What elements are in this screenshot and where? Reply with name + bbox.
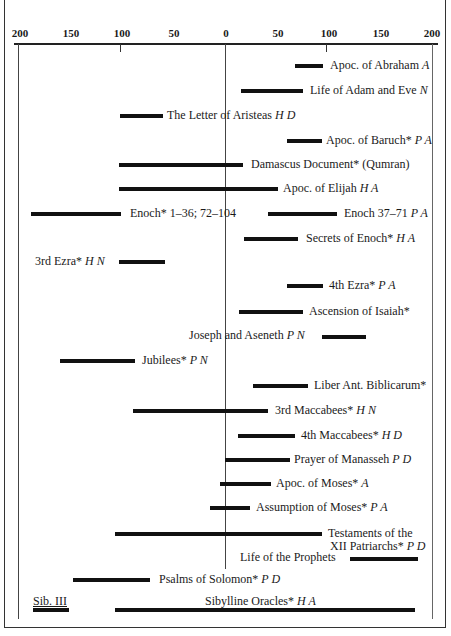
label-ascension-isaiah: Ascension of Isaiah* <box>309 304 410 318</box>
label-apoc-moses: Apoc. of Moses* A <box>276 476 369 490</box>
label-jubilees: Jubilees* P N <box>142 353 208 367</box>
label-enoch-2: Enoch 37–71 P A <box>344 206 428 220</box>
label-4th-maccabees: 4th Maccabees* H D <box>301 428 402 442</box>
bar-4th-maccabees <box>238 434 295 438</box>
bar-apoc-abraham <box>295 64 323 68</box>
bar-life-adam-eve <box>241 89 303 93</box>
bar-assumption-moses <box>210 506 250 510</box>
zero-line <box>225 44 226 569</box>
label-apoc-elijah: Apoc. of Elijah H A <box>283 181 378 195</box>
label-life-prophets: Life of the Prophets <box>240 550 336 564</box>
label-3rd-maccabees: 3rd Maccabees* H N <box>275 403 376 417</box>
label-damascus-document: Damascus Document* (Qumran) <box>251 157 410 171</box>
bar-damascus-document <box>119 163 243 167</box>
bar-apoc-baruch <box>287 139 322 143</box>
label-joseph-aseneth: Joseph and Aseneth P N <box>189 328 305 342</box>
bar-prayer-manasseh <box>225 458 290 462</box>
bar-testaments-xii-patriarchs <box>115 532 322 536</box>
label-3rd-ezra: 3rd Ezra* H N <box>35 254 105 268</box>
x-axis <box>14 43 438 45</box>
tick-label: 100 <box>321 27 338 39</box>
bar-life-prophets <box>350 557 418 561</box>
label-sibylline-oracles: Sibylline Oracles* H A <box>205 594 316 608</box>
label-4th-ezra: 4th Ezra* P A <box>329 278 396 292</box>
tick-label: 200 <box>424 27 441 39</box>
left-guide-line <box>18 44 19 619</box>
tick-label: 200 <box>12 27 29 39</box>
tick-label: 0 <box>223 27 229 39</box>
bar-apoc-elijah <box>119 187 278 191</box>
label-apoc-baruch: Apoc. of Baruch* P A <box>326 133 432 147</box>
bar-secrets-enoch <box>244 237 298 241</box>
bar-psalms-solomon <box>73 578 150 582</box>
label-life-adam-eve: Life of Adam and Eve N <box>310 83 428 97</box>
bar-letter-aristeas <box>120 114 163 118</box>
tick-label: 100 <box>114 27 131 39</box>
label-enoch-1: Enoch* 1–36; 72–104 <box>130 206 236 220</box>
label-secrets-enoch: Secrets of Enoch* H A <box>306 231 415 245</box>
bar-3rd-maccabees <box>133 409 268 413</box>
label-assumption-moses: Assumption of Moses* P A <box>256 500 388 514</box>
tick-label: 150 <box>63 27 80 39</box>
label-apoc-abraham: Apoc. of Abraham A <box>330 58 429 72</box>
bar-jubilees <box>60 359 135 363</box>
bar-4th-ezra <box>287 284 323 288</box>
tick-label: 150 <box>373 27 390 39</box>
label-testaments-line2: XII Patriarchs* P D <box>330 539 425 553</box>
bar-enoch-2 <box>268 212 337 216</box>
bar-ascension-isaiah <box>239 310 303 314</box>
bar-liber-ant-biblicarum <box>253 384 308 388</box>
label-liber-ant-biblicarum: Liber Ant. Biblicarum* <box>314 378 426 392</box>
label-prayer-manasseh: Prayer of Manasseh P D <box>294 452 411 466</box>
tick-mark <box>120 44 121 52</box>
label-psalms-solomon: Psalms of Solomon* P D <box>159 572 280 586</box>
bar-sibylline-oracles <box>115 608 415 612</box>
right-guide-line <box>432 44 433 619</box>
bar-3rd-ezra <box>119 260 165 264</box>
bar-joseph-aseneth <box>322 335 366 339</box>
bar-apoc-moses <box>220 482 271 486</box>
tick-label: 50 <box>169 27 180 39</box>
bar-enoch-1 <box>31 212 121 216</box>
label-sib-iii: Sib. III <box>33 594 67 608</box>
tick-label: 50 <box>273 27 284 39</box>
label-letter-aristeas: The Letter of Aristeas H D <box>167 108 295 122</box>
label-testaments-line1: Testaments of the <box>328 526 412 540</box>
bar-sib-iii <box>33 608 69 612</box>
tick-mark <box>326 44 327 52</box>
